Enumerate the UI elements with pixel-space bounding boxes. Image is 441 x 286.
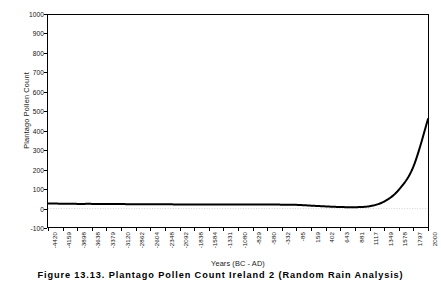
- y-tick-mark: [44, 131, 47, 132]
- x-tick-label: -85: [299, 232, 306, 241]
- x-tick-label: 2000: [431, 232, 438, 246]
- x-tick-mark: [355, 228, 356, 231]
- y-tick-label: 200: [33, 166, 44, 173]
- y-tick-label: 800: [33, 49, 44, 56]
- y-tick-mark: [44, 150, 47, 151]
- y-tick-label: 700: [33, 69, 44, 76]
- x-tick-mark: [209, 228, 210, 231]
- x-tick-mark: [428, 228, 429, 231]
- y-tick-label: 100: [33, 186, 44, 193]
- figure-caption: Figure 13.13. Plantago Pollen Count Irel…: [0, 270, 441, 280]
- x-tick-mark: [194, 228, 195, 231]
- y-tick-label: 1000: [29, 11, 44, 18]
- line-chart-svg: [47, 14, 429, 228]
- x-tick-label: -2092: [182, 232, 189, 248]
- x-tick-mark: [150, 228, 151, 231]
- x-tick-label: -3898: [80, 232, 87, 248]
- x-tick-mark: [267, 228, 268, 231]
- x-tick-mark: [399, 228, 400, 231]
- y-tick-label: 600: [33, 88, 44, 95]
- x-axis-title: Years (BC - AD): [47, 259, 429, 268]
- y-tick-label: 400: [33, 127, 44, 134]
- x-tick-label: 1117: [372, 232, 379, 245]
- x-tick-label: 643: [343, 232, 350, 243]
- y-tick-label: -100: [30, 225, 44, 232]
- x-tick-mark: [413, 228, 414, 231]
- y-tick-label: 0: [40, 205, 44, 212]
- chart-area: Plantago Pollen Count 100090080070060050…: [0, 0, 441, 268]
- y-tick-mark: [44, 170, 47, 171]
- x-tick-label: 1797: [416, 232, 423, 246]
- y-tick-mark: [44, 111, 47, 112]
- x-tick-mark: [311, 228, 312, 231]
- x-tick-label: -4420: [51, 232, 58, 248]
- x-tick-mark: [253, 228, 254, 231]
- x-tick-mark: [340, 228, 341, 231]
- x-tick-label: 881: [358, 232, 365, 243]
- x-tick-label: -1584: [211, 232, 218, 248]
- y-tick-mark: [44, 209, 47, 210]
- x-tick-mark: [296, 228, 297, 231]
- x-tick-mark: [384, 228, 385, 231]
- x-tick-label: -580: [270, 232, 277, 245]
- x-tick-mark: [165, 228, 166, 231]
- x-tick-mark: [180, 228, 181, 231]
- x-tick-label: 159: [314, 232, 321, 243]
- x-tick-mark: [77, 228, 78, 231]
- y-tick-label: 500: [33, 108, 44, 115]
- x-tick-label: 1578: [401, 232, 408, 246]
- x-tick-mark: [370, 228, 371, 231]
- x-tick-label: -1838: [197, 232, 204, 248]
- y-tick-label: 300: [33, 147, 44, 154]
- y-tick-label: 900: [33, 30, 44, 37]
- x-tick-label: -829: [255, 232, 262, 245]
- y-tick-mark: [44, 53, 47, 54]
- x-tick-mark: [63, 228, 64, 231]
- y-tick-mark: [44, 33, 47, 34]
- x-tick-mark: [48, 228, 49, 231]
- x-tick-label: -3120: [124, 232, 131, 248]
- x-tick-mark: [326, 228, 327, 231]
- x-tick-mark: [282, 228, 283, 231]
- x-tick-mark: [121, 228, 122, 231]
- y-tick-mark: [44, 92, 47, 93]
- x-tick-mark: [136, 228, 137, 231]
- x-tick-mark: [106, 228, 107, 231]
- x-tick-mark: [223, 228, 224, 231]
- x-tick-label: -1080: [241, 232, 248, 248]
- x-tick-mark: [238, 228, 239, 231]
- y-tick-mark: [44, 189, 47, 190]
- y-tick-mark: [44, 72, 47, 73]
- y-tick-mark: [44, 14, 47, 15]
- x-tick-label: -4159: [65, 232, 72, 248]
- y-axis-title: Plantago Pollen Count: [22, 41, 31, 181]
- x-tick-label: -2348: [168, 232, 175, 248]
- plot-area: 10009008007006005004003002001000-100 -44…: [47, 14, 429, 228]
- x-tick-label: -332: [284, 232, 291, 245]
- y-tick-mark: [44, 228, 47, 229]
- x-tick-label: 402: [328, 232, 335, 243]
- figure-container: Plantago Pollen Count 100090080070060050…: [0, 0, 441, 286]
- x-tick-label: 1349: [387, 232, 394, 246]
- x-tick-label: -3379: [109, 232, 116, 248]
- x-tick-label: -2862: [138, 232, 145, 248]
- x-tick-mark: [92, 228, 93, 231]
- x-tick-label: -1331: [226, 232, 233, 248]
- x-tick-label: -2604: [153, 232, 160, 248]
- x-tick-label: -3638: [94, 232, 101, 248]
- plot-frame: [48, 15, 429, 228]
